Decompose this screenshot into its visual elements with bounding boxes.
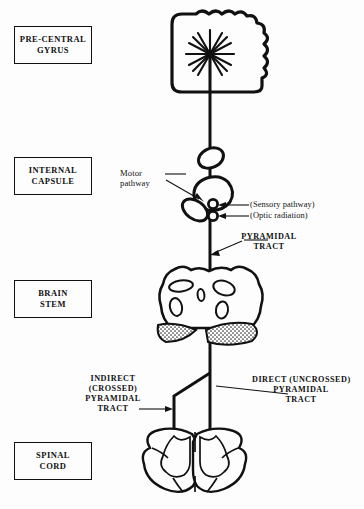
annotation-indirect-crossed-pyramidal-tract: INDIRECT (CROSSED) PYRAMIDAL TRACT: [84, 374, 142, 414]
sensory-pathway-marker: [208, 199, 217, 208]
region-box-internal-capsule[interactable]: INTERNALCAPSULE: [14, 157, 92, 195]
internal-capsule-upper-nucleus: [195, 144, 226, 172]
optic-radiation-marker: [208, 211, 217, 220]
annotation-optic-radiation: (Optic radiation): [250, 211, 308, 221]
region-label-spinal-cord: SPINALCORD: [36, 450, 70, 472]
annotation-motor-pathway: Motor pathway: [120, 168, 150, 189]
anatomy-drawing: [0, 0, 364, 509]
region-label-pre-central-gyrus: PRE-CENTRALGYRUS: [20, 34, 86, 56]
region-label-brain-stem: BRAINSTEM: [38, 288, 68, 310]
pyramidal-tract-diagram: PRE-CENTRALGYRUS INTERNALCAPSULE BRAINST…: [0, 0, 364, 509]
region-box-spinal-cord[interactable]: SPINALCORD: [14, 442, 92, 480]
pre-central-gyrus-outline: [172, 11, 268, 92]
annotation-sensory-pathway: (Sensory pathway): [250, 200, 315, 210]
region-box-pre-central-gyrus[interactable]: PRE-CENTRALGYRUS: [14, 26, 92, 64]
right-pyramid-stipple: [206, 323, 257, 345]
region-label-internal-capsule: INTERNALCAPSULE: [29, 165, 77, 187]
annotation-direct-uncrossed-pyramidal-tract: DIRECT (UNCROSSED) PYRAMIDAL TRACT: [252, 375, 350, 405]
annotation-pyramidal-tract: PYRAMIDAL TRACT: [234, 232, 304, 252]
region-box-brain-stem[interactable]: BRAINSTEM: [14, 280, 92, 318]
